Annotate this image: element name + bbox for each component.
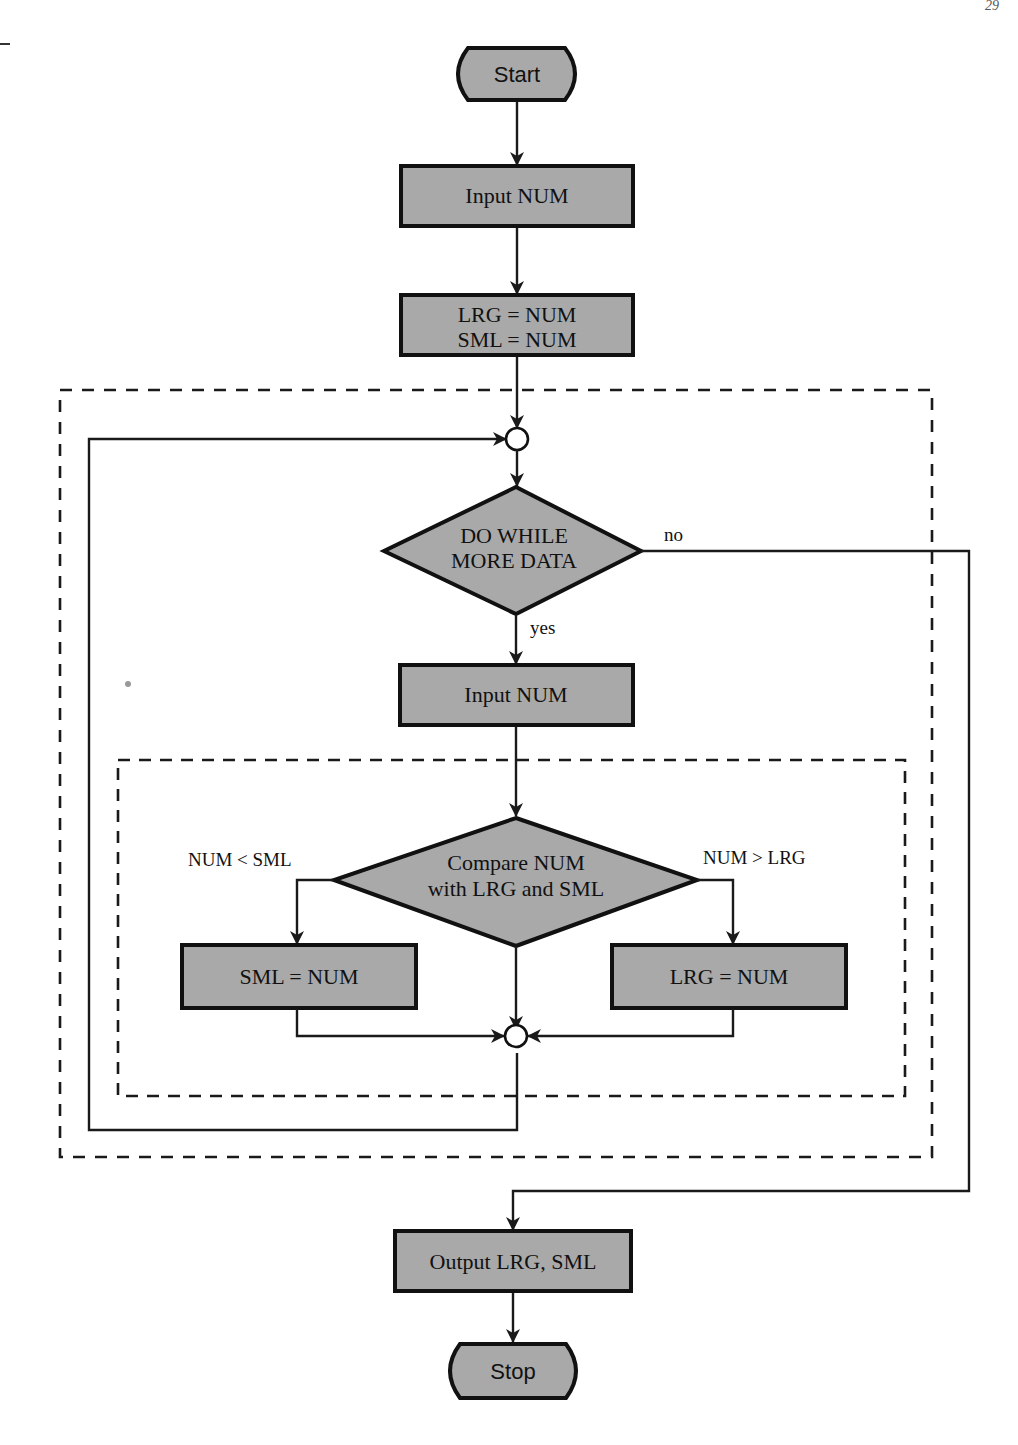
input-num-loop-label: Input NUM	[464, 682, 567, 707]
flowchart-diagram: 29 Start Input NUM LRG = NUM SML = NUM D…	[0, 0, 1018, 1445]
set-small-label: SML = NUM	[239, 964, 358, 989]
init-line1: LRG = NUM	[458, 302, 577, 327]
input-num-first-label: Input NUM	[465, 183, 568, 208]
yes-label: yes	[530, 617, 555, 638]
merge-connector	[505, 1025, 527, 1047]
loop-entry-connector	[506, 428, 528, 450]
arrow-greater-branch	[697, 880, 733, 944]
input-num-loop-box: Input NUM	[400, 665, 633, 725]
arrow-large-to-merge	[528, 1009, 733, 1036]
set-large-box: LRG = NUM	[612, 945, 846, 1008]
branch-less-label: NUM < SML	[188, 849, 292, 870]
input-num-first-box: Input NUM	[401, 166, 633, 226]
page-number: 29	[985, 0, 999, 13]
stop-label: Stop	[490, 1359, 535, 1384]
no-label: no	[664, 524, 683, 545]
output-box: Output LRG, SML	[395, 1231, 631, 1291]
set-large-label: LRG = NUM	[670, 964, 789, 989]
compare-line2: with LRG and SML	[428, 876, 605, 901]
decision-line2: MORE DATA	[451, 548, 577, 573]
set-small-box: SML = NUM	[182, 945, 416, 1008]
compare-line1: Compare NUM	[447, 850, 584, 875]
branch-greater-label: NUM > LRG	[703, 847, 806, 868]
arrow-less-branch	[297, 880, 334, 944]
start-terminal: Start	[458, 48, 575, 100]
decision-line1: DO WHILE	[460, 523, 568, 548]
initialize-box: LRG = NUM SML = NUM	[401, 295, 633, 355]
compare-decision: Compare NUM with LRG and SML	[334, 818, 697, 946]
stop-terminal: Stop	[450, 1344, 576, 1398]
init-line2: SML = NUM	[457, 327, 576, 352]
stray-dot	[125, 681, 131, 687]
start-label: Start	[494, 62, 540, 87]
arrow-small-to-merge	[297, 1009, 504, 1036]
do-while-decision: DO WHILE MORE DATA	[384, 487, 641, 614]
output-label: Output LRG, SML	[430, 1249, 597, 1274]
